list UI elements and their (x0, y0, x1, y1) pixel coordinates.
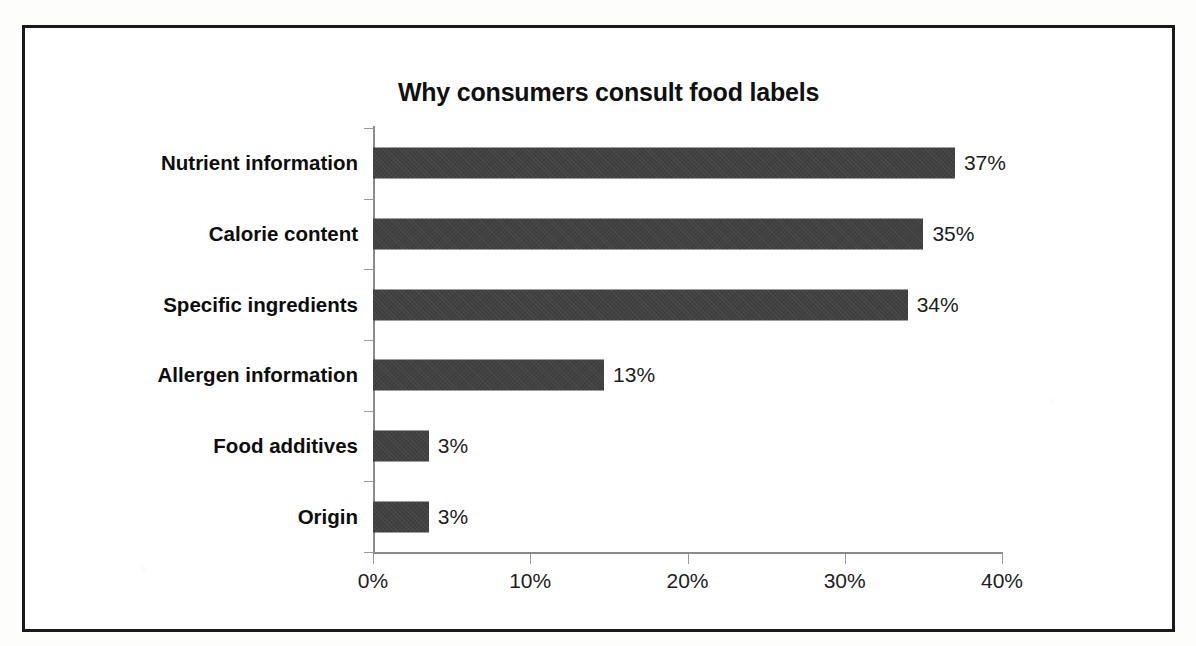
bar (373, 501, 429, 532)
chart-title: Why consumers consult food labels (25, 78, 1172, 107)
value-axis-tick (530, 554, 531, 564)
bar-row: Specific ingredients 34% (373, 269, 1002, 340)
chart-frame: Why consumers consult food labels 0% 10%… (22, 25, 1175, 632)
bar (373, 218, 923, 249)
category-label: Nutrient information (13, 151, 358, 175)
bar-value-label: 3% (429, 434, 468, 458)
bar-row: Food additives 3% (373, 411, 1002, 482)
category-label: Specific ingredients (13, 293, 358, 317)
x-tick-label: 20% (666, 569, 708, 593)
bar-value-label: 37% (955, 151, 1006, 175)
x-tick-label: 30% (824, 569, 866, 593)
scanned-page-background: Why consumers consult food labels 0% 10%… (0, 0, 1196, 646)
bar (373, 360, 604, 391)
bar-row: Calorie content 35% (373, 199, 1002, 270)
category-label: Allergen information (13, 363, 358, 387)
bar-value-label: 34% (908, 293, 959, 317)
value-axis-tick (1002, 554, 1003, 564)
bar-value-label: 35% (923, 222, 974, 246)
bar (373, 148, 955, 179)
bar (373, 289, 908, 320)
category-label: Origin (13, 505, 358, 529)
value-axis-tick (688, 554, 689, 564)
bar (373, 430, 429, 461)
bar-row: Nutrient information 37% (373, 128, 1002, 199)
category-axis-tick (364, 552, 374, 553)
x-tick-label: 0% (358, 569, 388, 593)
bar-value-label: 13% (604, 363, 655, 387)
x-tick-label: 40% (981, 569, 1023, 593)
value-axis-tick (845, 554, 846, 564)
bar-value-label: 3% (429, 505, 468, 529)
value-axis-tick (373, 554, 374, 564)
bar-row: Origin 3% (373, 481, 1002, 552)
bar-row: Allergen information 13% (373, 340, 1002, 411)
category-label: Calorie content (13, 222, 358, 246)
category-label: Food additives (13, 434, 358, 458)
x-tick-label: 10% (509, 569, 551, 593)
plot-area: Nutrient information 37% Calorie content… (373, 128, 1002, 552)
